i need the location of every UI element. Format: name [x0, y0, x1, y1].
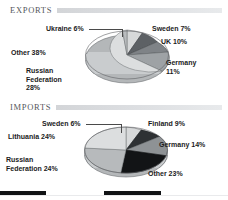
imports-title: IMPORTS — [10, 102, 51, 113]
header-rule — [57, 8, 222, 13]
exports-label-germany: Germany 11% — [166, 59, 196, 76]
ukraine-leader-line — [89, 29, 123, 30]
exports-label-uk: UK 10% — [161, 38, 187, 47]
sweden-leader-tick — [121, 124, 122, 133]
imports-label-russia: Russian Federation 24% — [6, 156, 58, 173]
exports-header: EXPORTS — [10, 5, 222, 16]
imports-label-finland: Finland 9% — [148, 120, 185, 129]
imports-label-germany: Germany 14% — [159, 141, 205, 150]
exports-section: EXPORTS — [0, 0, 228, 97]
imports-label-sweden: Sweden 6% — [42, 120, 81, 129]
ukraine-leader-tick — [122, 29, 123, 37]
footer-hairline — [0, 195, 228, 196]
imports-label-lithuania: Lithuania 24% — [8, 133, 55, 142]
exports-label-russia: Russian Federation 28% — [26, 67, 62, 93]
page-footer-strip — [0, 191, 228, 200]
sweden-leader-line — [86, 124, 122, 125]
exports-label-ukraine: Ukraine 6% — [46, 25, 84, 34]
imports-label-other: Other 23% — [148, 170, 183, 179]
exports-pie-chart — [84, 26, 170, 90]
imports-header: IMPORTS — [10, 102, 222, 113]
exports-label-sweden: Sweden 7% — [152, 25, 191, 34]
exports-label-other: Other 38% — [11, 49, 46, 58]
exports-pie-svg — [84, 26, 170, 90]
exports-title: EXPORTS — [10, 5, 52, 16]
header-rule — [56, 105, 222, 110]
